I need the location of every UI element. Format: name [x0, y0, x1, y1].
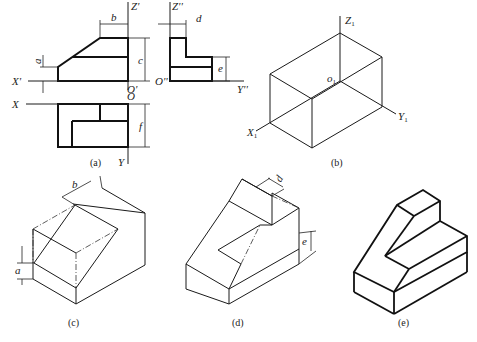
y-double-prime-label: Y'': [237, 83, 248, 95]
y1-label: Y1: [398, 110, 408, 124]
x-prime-label: X': [11, 75, 22, 87]
x-label: X: [11, 98, 20, 110]
dim-b-label: b: [111, 11, 117, 23]
panel-e-final-isometric: (e): [354, 190, 467, 329]
panel-c-slope-cut: b a (c): [15, 176, 145, 329]
z-prime-label: Z': [131, 0, 140, 12]
dim-b-label-c: b: [72, 178, 78, 190]
z1-label: Z1: [345, 14, 355, 28]
dim-c-label: c: [138, 54, 143, 66]
panel-d-notch-cut: d e (d): [186, 173, 316, 329]
x1-axis: [256, 81, 340, 131]
x1-label: X1: [246, 126, 258, 140]
z-double-prime-label: Z'': [172, 0, 183, 12]
dim-a-label: a: [31, 58, 43, 64]
caption-b: (b): [331, 157, 343, 169]
dim-f-label: f: [139, 120, 144, 132]
panel-b-bounding-box: Z1 X1 Y1 o1 (b): [246, 14, 408, 169]
caption-e: (e): [398, 317, 409, 329]
y1-axis: [340, 81, 396, 114]
caption-d: (d): [232, 317, 244, 329]
dim-a-label-c: a: [15, 264, 21, 276]
caption-a: (a): [90, 157, 101, 169]
o-label: O: [127, 90, 135, 102]
caption-c: (c): [68, 317, 79, 329]
dim-e-label: e: [218, 62, 223, 74]
front-view: [40, 20, 150, 81]
top-view: [58, 104, 150, 147]
y-label: Y: [118, 156, 126, 168]
dim-e-label-d: e: [302, 235, 307, 247]
dim-d-label: d: [196, 12, 202, 24]
panel-a-three-views: Z' X' O' b a c Z'' O'' Y'' d e: [11, 0, 248, 169]
isometric-construction-figure: Z' X' O' b a c Z'' O'' Y'' d e: [0, 0, 477, 342]
o-double-prime-label: O'': [155, 75, 168, 87]
o1-label: o1: [327, 72, 337, 86]
